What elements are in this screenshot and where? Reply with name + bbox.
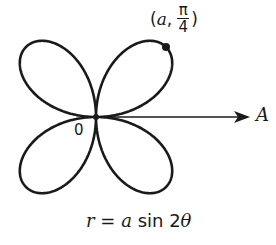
paren-open: ( <box>150 9 157 29</box>
eq-coefficient: a <box>121 210 132 231</box>
comma: , <box>167 9 172 29</box>
fraction-numerator: π <box>179 3 188 17</box>
origin-label: 0 <box>74 121 84 139</box>
polar-axis-label: A <box>256 104 269 125</box>
eq-function: sin 2 <box>138 210 181 231</box>
eq-sign: = <box>100 210 115 231</box>
equation-caption: r = a sin 2θ <box>86 210 191 231</box>
paren-close: ) <box>191 9 198 29</box>
eq-variable: θ <box>181 210 192 231</box>
rose-curve-figure <box>0 0 276 245</box>
angle-fraction: π 4 <box>177 3 189 34</box>
eq-lhs: r <box>86 210 95 231</box>
point-r-value: a <box>157 9 167 29</box>
origin-point <box>93 114 99 120</box>
point-a-pi-over-4 <box>162 43 170 51</box>
point-label: ( a , π 4 ) <box>150 3 198 34</box>
fraction-denominator: 4 <box>178 20 188 34</box>
